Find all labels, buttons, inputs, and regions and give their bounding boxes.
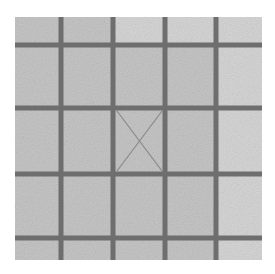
tile	[61, 45, 113, 108]
tile	[113, 45, 165, 108]
tile	[61, 108, 113, 174]
vertical-grout-line	[111, 17, 116, 260]
horizontal-grout-line	[15, 172, 262, 177]
tile	[216, 174, 262, 238]
tile	[61, 238, 113, 260]
tile	[15, 108, 61, 174]
tile	[165, 17, 216, 45]
tile	[216, 238, 262, 260]
tile	[61, 17, 113, 45]
tile-grid-photo	[0, 0, 275, 274]
horizontal-grout-line	[15, 106, 262, 111]
tile	[216, 17, 262, 45]
tile	[113, 17, 165, 45]
tile	[15, 45, 61, 108]
tile	[165, 238, 216, 260]
tile	[61, 174, 113, 238]
tile	[216, 108, 262, 174]
vertical-grout-line	[59, 17, 64, 260]
tile	[15, 17, 61, 45]
horizontal-grout-line	[15, 236, 262, 241]
tiles	[15, 17, 262, 260]
tile	[165, 45, 216, 108]
tile	[15, 174, 61, 238]
tile	[165, 174, 216, 238]
vertical-grout-line	[163, 17, 168, 260]
vertical-grout-line	[214, 17, 219, 260]
horizontal-grout-line	[15, 43, 262, 48]
tile	[113, 174, 165, 238]
tile	[216, 45, 262, 108]
tile	[165, 108, 216, 174]
tile	[113, 238, 165, 260]
tile	[15, 238, 61, 260]
